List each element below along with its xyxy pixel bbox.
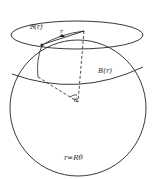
- relation-label: r=Rθ: [64, 154, 83, 162]
- radius-label: r: [60, 27, 64, 34]
- geodesic-ball-label: B(r): [97, 67, 112, 75]
- cap-meridian-left: [38, 45, 43, 77]
- left-dashed-line: [38, 77, 78, 102]
- radius-endpoint-dot: [40, 43, 43, 46]
- angle-label: θ: [74, 96, 78, 103]
- radius-arrow: [44, 31, 84, 44]
- tangent-ball-label: 𝔅(r): [29, 23, 43, 31]
- center-dashed-line: [78, 31, 84, 102]
- geodesic-ball-boundary: [12, 67, 143, 84]
- sphere-diagram: 𝔅(r) B(r) r θ r=Rθ: [0, 0, 155, 179]
